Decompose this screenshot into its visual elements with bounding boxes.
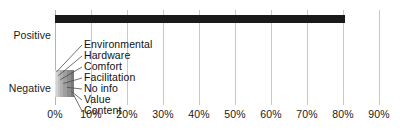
bar-segment-content [71, 70, 74, 97]
chart-row-positive [55, 10, 379, 48]
gridline-90pct [379, 10, 380, 105]
horizontal-stacked-bar-chart: Positive Negative 0%10%20%30%40%50%60%70… [0, 0, 400, 132]
x-axis-tick-labels: 0%10%20%30%40%50%60%70%80%90% [55, 108, 379, 126]
bar-segment-positive [55, 15, 345, 23]
x-tick-label-50pct: 50% [224, 108, 245, 120]
y-axis-label-negative: Negative [9, 82, 51, 94]
plot-area [55, 10, 379, 105]
bar-negative-stack [55, 70, 74, 97]
x-tick-label-70pct: 70% [296, 108, 317, 120]
x-tick-label-80pct: 80% [332, 108, 353, 120]
chart-row-negative [55, 48, 379, 105]
x-tick-label-30pct: 30% [152, 108, 173, 120]
x-tick-label-90pct: 90% [368, 108, 389, 120]
x-tick-label-40pct: 40% [188, 108, 209, 120]
x-tick-label-60pct: 60% [260, 108, 281, 120]
y-axis-label-positive: Positive [13, 29, 51, 41]
x-tick-label-10pct: 10% [80, 108, 101, 120]
x-tick-label-20pct: 20% [116, 108, 137, 120]
x-tick-label-0pct: 0% [47, 108, 62, 120]
bar-positive [55, 15, 345, 23]
